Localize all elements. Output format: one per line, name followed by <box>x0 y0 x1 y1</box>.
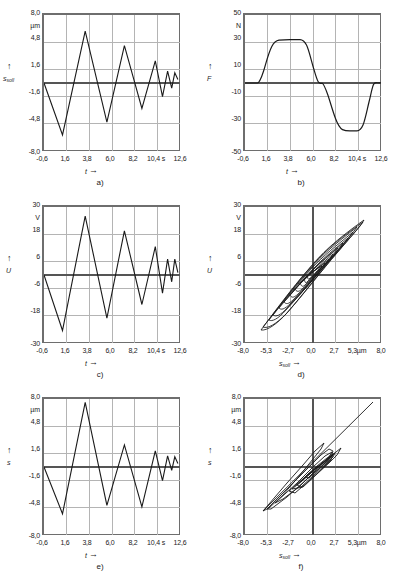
panel-d: 30 V 18 6 -6 -18 -30 ↑ U -8,0 -5,3 -2,7 … <box>201 192 401 382</box>
panel-c: 30 V 18 6 -6 -18 -30 ↑ U -0,6 1,6 3,8 6,… <box>0 192 200 382</box>
y-tick-f-5: -8,0 <box>215 532 241 539</box>
y-axis-name-e: s <box>7 459 11 468</box>
y-axis-arrow-b: ↑ <box>208 62 213 71</box>
y-tick-c-5: -30 <box>14 340 40 347</box>
plot-svg-d <box>245 207 381 343</box>
y-tick-e-5: -8,0 <box>14 532 40 539</box>
y-unit-f: µm <box>215 406 241 413</box>
y-tick-c-4: -18 <box>14 307 40 314</box>
panel-e: 8,0 µm 4,8 1,6 -1,6 -4,8 -8,0 ↑ s -0,6 1… <box>0 384 200 576</box>
y-tick-a-5: -8,0 <box>14 148 40 155</box>
plot-svg-f <box>245 399 381 535</box>
y-tick-c-0: 30 <box>14 201 40 208</box>
y-axis-arrow-f: ↑ <box>208 446 213 455</box>
y-tick-f-4: -4,8 <box>215 499 241 506</box>
y-tick-d-5: -30 <box>215 340 241 347</box>
hysteresis-loops-f <box>263 402 373 511</box>
plot-area-b <box>243 13 381 151</box>
panel-b: 50 N 30 10 -10 -30 -50 ↑ F -0,6 1,6 3,8 … <box>201 0 401 190</box>
caption-e: e) <box>0 562 200 571</box>
y-tick-b-3: -10 <box>215 88 241 95</box>
plot-svg-e <box>44 399 180 535</box>
y-tick-b-4: -30 <box>215 115 241 122</box>
y-unit-a: µm <box>14 22 40 29</box>
caption-a: a) <box>0 178 200 187</box>
y-tick-d-0: 30 <box>215 201 241 208</box>
y-tick-e-1: 4,8 <box>14 418 40 425</box>
x-axis-name-b: t → <box>286 166 299 176</box>
caption-b: b) <box>201 178 401 187</box>
caption-c: c) <box>0 370 200 379</box>
y-tick-b-1: 30 <box>215 34 241 41</box>
y-tick-c-1: 18 <box>14 226 40 233</box>
y-axis-arrow-e: ↑ <box>7 446 12 455</box>
y-axis-arrow-a: ↑ <box>7 62 12 71</box>
y-tick-d-1: 18 <box>215 226 241 233</box>
plot-area-d <box>243 205 381 343</box>
y-axis-name-f: s <box>208 459 212 468</box>
y-axis-name-a: ssoll <box>3 75 14 84</box>
y-tick-e-3: -1,6 <box>14 472 40 479</box>
panel-a: 8,0 µm 4,8 1,6 -1,6 -4,8 -8,0 ↑ ssoll -0… <box>0 0 200 190</box>
caption-f: f) <box>201 562 401 571</box>
x-tick-d-6: 8,0 <box>368 347 394 354</box>
y-tick-e-4: -4,8 <box>14 499 40 506</box>
y-tick-b-0: 50 <box>215 9 241 16</box>
x-axis-name-d: ssoll → <box>279 358 301 369</box>
x-tick-c-6: 12,6 <box>167 347 193 354</box>
plot-svg-c <box>44 207 180 343</box>
y-tick-c-2: 6 <box>14 253 40 260</box>
y-tick-f-1: 4,8 <box>215 418 241 425</box>
y-unit-c: V <box>14 214 40 221</box>
y-axis-name-b: F <box>207 75 211 84</box>
y-tick-a-1: 4,8 <box>14 34 40 41</box>
x-axis-name-f: ssoll → <box>279 550 301 561</box>
caption-d: d) <box>201 370 401 379</box>
y-tick-a-0: 8,0 <box>14 9 40 16</box>
y-tick-c-3: -6 <box>14 280 40 287</box>
y-tick-e-2: 1,6 <box>14 445 40 452</box>
x-axis-name-a: t → <box>85 166 98 176</box>
y-tick-f-0: 8,0 <box>215 393 241 400</box>
x-tick-f-6: 8,0 <box>368 539 394 546</box>
plot-svg-b <box>245 15 381 151</box>
y-axis-name-d: U <box>207 267 212 276</box>
y-tick-f-3: -1,6 <box>215 472 241 479</box>
x-tick-b-6: 12,6 <box>368 155 394 162</box>
plot-area-c <box>42 205 180 343</box>
plot-svg-a <box>44 15 180 151</box>
y-tick-d-2: 6 <box>215 253 241 260</box>
y-axis-name-c: U <box>6 267 11 276</box>
y-unit-d: V <box>215 214 241 221</box>
y-tick-d-3: -6 <box>215 280 241 287</box>
y-tick-a-2: 1,6 <box>14 61 40 68</box>
y-unit-e: µm <box>14 406 40 413</box>
x-axis-name-c: t → <box>85 358 98 368</box>
y-axis-arrow-d: ↑ <box>208 254 213 263</box>
x-tick-a-6: 12,6 <box>167 155 193 162</box>
y-tick-b-5: -50 <box>215 148 241 155</box>
y-axis-arrow-c: ↑ <box>7 254 12 263</box>
x-axis-name-e: t → <box>85 550 98 560</box>
y-unit-b: N <box>215 22 241 29</box>
y-tick-a-3: -1,6 <box>14 88 40 95</box>
x-tick-e-6: 12,6 <box>167 539 193 546</box>
y-tick-d-4: -18 <box>215 307 241 314</box>
y-tick-b-2: 10 <box>215 61 241 68</box>
multi-panel-figure: 8,0 µm 4,8 1,6 -1,6 -4,8 -8,0 ↑ ssoll -0… <box>0 0 401 576</box>
plot-area-a <box>42 13 180 151</box>
y-tick-a-4: -4,8 <box>14 115 40 122</box>
plot-area-f <box>243 397 381 535</box>
panel-f: 8,0 µm 4,8 1,6 -1,6 -4,8 -8,0 ↑ s -8,0 -… <box>201 384 401 576</box>
plot-area-e <box>42 397 180 535</box>
y-tick-e-0: 8,0 <box>14 393 40 400</box>
y-tick-f-2: 1,6 <box>215 445 241 452</box>
